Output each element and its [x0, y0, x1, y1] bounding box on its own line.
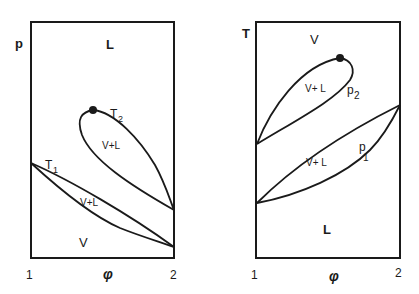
- right-lens-label: V+ L: [306, 157, 327, 168]
- right-x-tick-1: 1: [251, 268, 258, 282]
- svg-text:2: 2: [118, 114, 123, 124]
- left-x-axis-label: φ: [103, 266, 113, 282]
- svg-text:1: 1: [53, 165, 58, 175]
- right-x-tick-2: 2: [395, 266, 402, 280]
- left-t1-upper-curve: [31, 163, 174, 247]
- right-loop-label: V+ L: [305, 83, 326, 94]
- svg-text:p: p: [347, 83, 354, 97]
- right-diagram: T V L V+ L p 1 V+ L p 2 1 2 φ: [242, 22, 402, 284]
- svg-text:2: 2: [354, 90, 360, 101]
- left-critical-point: [89, 106, 97, 114]
- svg-text:1: 1: [363, 152, 369, 163]
- svg-text:T: T: [45, 158, 53, 172]
- left-lens-label: V+L: [80, 197, 99, 208]
- left-x-tick-1: 1: [26, 268, 33, 282]
- left-region-top: L: [106, 37, 114, 52]
- right-critical-point: [336, 54, 344, 62]
- right-p2-label: p 2: [347, 83, 360, 101]
- right-region-top: V: [310, 32, 319, 47]
- right-p2-lower-curve: [257, 58, 353, 144]
- right-p1-lower-curve: [257, 105, 400, 203]
- left-x-tick-2: 2: [170, 268, 177, 282]
- right-p1-upper-curve: [257, 105, 400, 203]
- left-t2-upper-curve: [93, 110, 174, 210]
- left-loop-label: V+L: [102, 140, 121, 151]
- left-t1-lower-curve: [31, 163, 174, 247]
- phase-diagrams: p L V V+L T 1 V+L T 2 1 2 φ T V L V+: [0, 0, 419, 294]
- left-y-axis-label: p: [15, 36, 23, 51]
- right-y-axis-label: T: [242, 26, 250, 41]
- left-diagram: p L V V+L T 1 V+L T 2 1 2 φ: [15, 22, 177, 282]
- svg-text:T: T: [110, 107, 118, 121]
- right-region-bottom: L: [323, 222, 331, 237]
- left-t2-label: T 2: [110, 107, 123, 124]
- left-region-bottom: V: [79, 235, 88, 250]
- right-x-axis-label: φ: [329, 268, 339, 284]
